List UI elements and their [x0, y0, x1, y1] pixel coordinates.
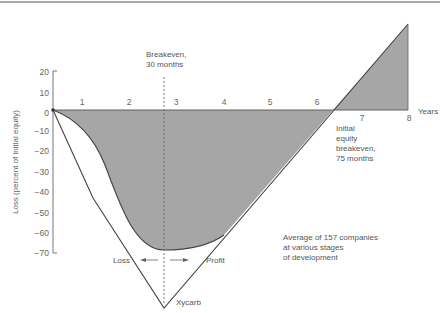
y-tick-m40: −40 [35, 187, 50, 197]
y-tick-m30: −30 [35, 167, 50, 177]
breakeven-label-line1: Breakeven, [146, 50, 186, 59]
x-tick-2: 2 [127, 97, 132, 107]
y-tick-10: 10 [40, 88, 50, 98]
y-tick-0: 0 [44, 108, 49, 118]
origin-dot [51, 108, 55, 112]
x-tick-6: 6 [315, 97, 320, 107]
initial-breakeven-line2: equity [336, 134, 357, 143]
note-line2: at various stages [283, 243, 343, 252]
profit-label: Profit [206, 256, 225, 265]
note-line3: of development [283, 253, 338, 262]
y-tick-m70: −70 [35, 248, 50, 258]
x-tick-1: 1 [80, 97, 85, 107]
loss-label: Loss [113, 256, 130, 265]
y-tick-m50: −50 [35, 208, 50, 218]
profit-arrowhead-icon [183, 258, 189, 262]
initial-breakeven-line3: breakeven, [336, 144, 376, 153]
loss-arrowhead-icon [140, 258, 146, 262]
loss-area [53, 110, 333, 250]
chart-svg: 20 10 0 −10 −20 −30 −40 −50 −60 −70 1 2 … [0, 0, 448, 313]
breakeven-label-line2: 30 months [146, 60, 183, 69]
initial-breakeven-line1: Initial [336, 124, 355, 133]
x-tick-3: 3 [174, 97, 179, 107]
xycarb-label: Xycarb [176, 298, 201, 307]
y-tick-m10: −10 [35, 126, 50, 136]
y-tick-20: 20 [40, 67, 50, 77]
x-tick-7: 7 [360, 113, 365, 123]
y-axis-title: Loss (percent of initial equity) [11, 110, 20, 214]
y-tick-m60: −60 [35, 228, 50, 238]
x-tick-8: 8 [407, 113, 412, 123]
x-tick-4: 4 [222, 97, 227, 107]
x-tick-5: 5 [268, 97, 273, 107]
x-axis-title: Years [418, 107, 438, 116]
initial-breakeven-line4: 75 months [336, 154, 373, 163]
y-tick-m20: −20 [35, 146, 50, 156]
note-line1: Average of 157 companies [283, 233, 378, 242]
